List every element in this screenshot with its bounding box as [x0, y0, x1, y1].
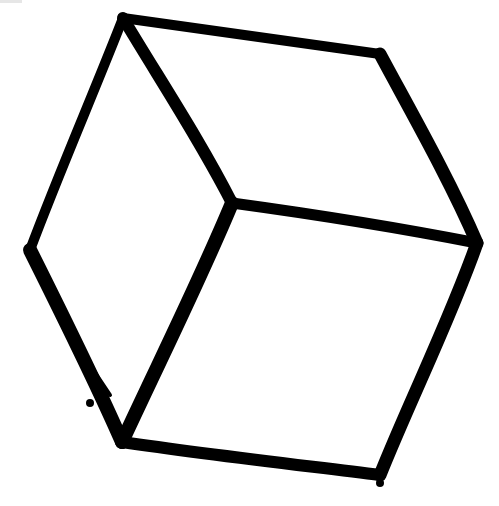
corner-artifact — [0, 0, 22, 3]
cube-drawing — [0, 0, 499, 506]
cube-edges — [30, 18, 477, 487]
